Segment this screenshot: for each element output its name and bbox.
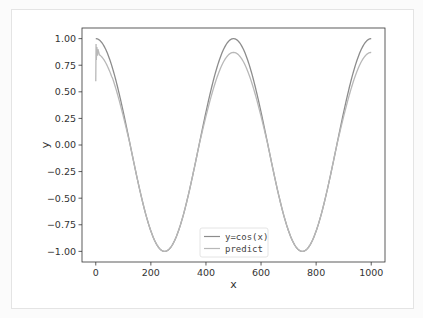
plot-lines xyxy=(96,39,371,252)
series-line-cos xyxy=(96,39,371,252)
y-tick-label: −1.00 xyxy=(47,246,76,257)
chart: 02004006008001000 1.000.750.500.250.00−0… xyxy=(0,0,423,318)
y-tick-label: −0.75 xyxy=(47,219,76,230)
axes-box xyxy=(82,28,385,262)
x-tick-label: 800 xyxy=(307,267,325,278)
x-axis-label: x xyxy=(230,278,237,291)
legend-label-predict: predict xyxy=(225,244,263,254)
series-line-predict xyxy=(96,44,371,251)
x-tick-label: 0 xyxy=(93,267,99,278)
y-tick-label: −0.25 xyxy=(47,166,76,177)
y-tick-label: −0.50 xyxy=(47,193,76,204)
legend: y=cos(x) predict xyxy=(200,228,268,257)
y-ticks: 1.000.750.500.250.00−0.25−0.50−0.75−1.00 xyxy=(47,33,82,257)
x-tick-label: 600 xyxy=(252,267,270,278)
y-tick-label: 0.00 xyxy=(55,139,76,150)
x-tick-label: 200 xyxy=(142,267,160,278)
x-tick-label: 400 xyxy=(197,267,215,278)
y-tick-label: 0.25 xyxy=(55,113,76,124)
x-tick-label: 1000 xyxy=(359,267,383,278)
legend-label-cos: y=cos(x) xyxy=(225,232,268,242)
x-ticks: 02004006008001000 xyxy=(93,262,384,278)
y-tick-label: 0.75 xyxy=(55,60,76,71)
y-tick-label: 1.00 xyxy=(55,33,76,44)
y-tick-label: 0.50 xyxy=(55,86,76,97)
y-axis-label: y xyxy=(39,141,52,148)
